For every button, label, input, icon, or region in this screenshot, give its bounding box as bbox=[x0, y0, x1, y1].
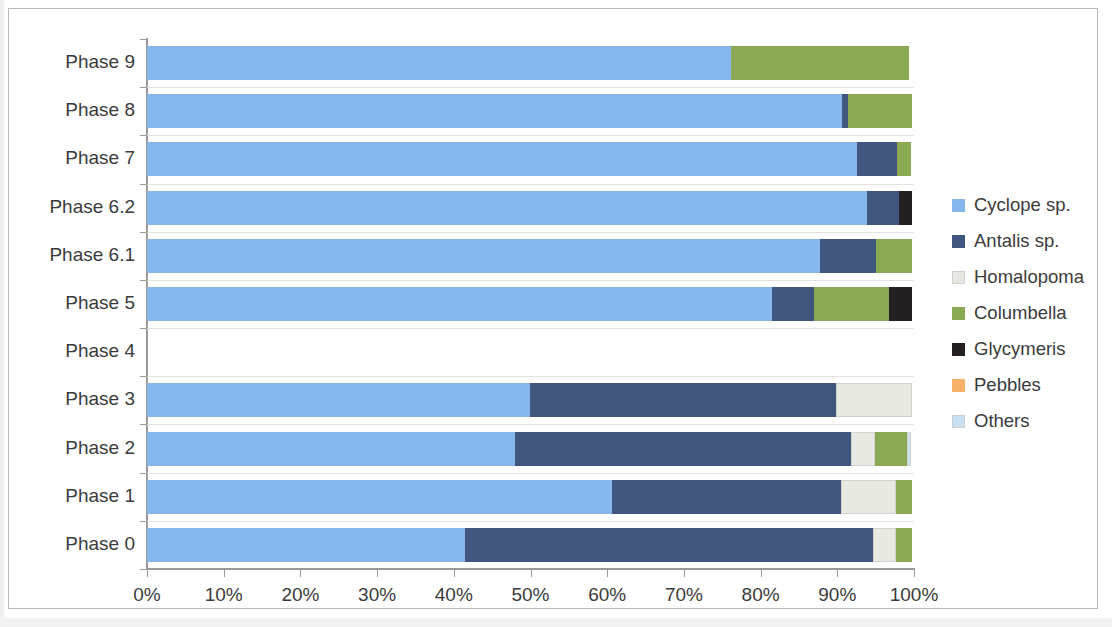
gridline bbox=[147, 232, 914, 233]
bar-segment[interactable] bbox=[147, 142, 857, 176]
bar-segment[interactable] bbox=[147, 383, 530, 417]
y-axis-tick bbox=[140, 39, 147, 40]
bar-segment[interactable] bbox=[465, 528, 873, 562]
bar-row[interactable] bbox=[147, 528, 914, 562]
y-axis-label-phase-7: Phase 7 bbox=[17, 147, 135, 169]
y-axis-label-phase-2: Phase 2 bbox=[17, 437, 135, 459]
bar-segment[interactable] bbox=[731, 46, 909, 80]
gridline bbox=[147, 280, 914, 281]
y-axis-tick bbox=[140, 473, 147, 474]
x-axis-label-80pct: 80% bbox=[742, 584, 780, 606]
gridline bbox=[147, 521, 914, 522]
bar-segment[interactable] bbox=[147, 287, 772, 321]
bar-segment[interactable] bbox=[836, 383, 912, 417]
x-axis-label-50pct: 50% bbox=[511, 584, 549, 606]
bar-row[interactable] bbox=[147, 142, 914, 176]
bar-segment[interactable] bbox=[772, 287, 814, 321]
bar-segment[interactable] bbox=[147, 480, 612, 514]
bar-row[interactable] bbox=[147, 383, 914, 417]
legend: Cyclope sp.Antalis sp.HomalopomaColumbel… bbox=[952, 187, 1102, 439]
legend-item[interactable]: Others bbox=[952, 403, 1102, 439]
bar-segment[interactable] bbox=[515, 432, 851, 466]
bar-segment[interactable] bbox=[147, 94, 842, 128]
scan-edge-left bbox=[0, 0, 4, 627]
legend-swatch-icon bbox=[952, 271, 965, 284]
legend-item[interactable]: Homalopoma bbox=[952, 259, 1102, 295]
bar-segment[interactable] bbox=[851, 432, 875, 466]
bar-segment[interactable] bbox=[147, 46, 731, 80]
legend-label: Glycymeris bbox=[974, 338, 1065, 360]
bar-segment[interactable] bbox=[814, 287, 889, 321]
bar-segment[interactable] bbox=[147, 239, 820, 273]
y-axis-tick bbox=[140, 232, 147, 233]
chart-frame: Phase 9Phase 8Phase 7Phase 6.2Phase 6.1P… bbox=[8, 8, 1098, 609]
bar-segment[interactable] bbox=[897, 142, 911, 176]
y-axis-tick bbox=[140, 135, 147, 136]
legend-item[interactable]: Pebbles bbox=[952, 367, 1102, 403]
bar-segment[interactable] bbox=[875, 432, 907, 466]
scan-edge-bottom bbox=[0, 618, 1112, 627]
bar-segment[interactable] bbox=[530, 383, 836, 417]
bar-row[interactable] bbox=[147, 46, 914, 80]
bar-segment[interactable] bbox=[147, 432, 515, 466]
bar-row[interactable] bbox=[147, 239, 914, 273]
y-axis-tick bbox=[140, 376, 147, 377]
bar-segment[interactable] bbox=[907, 432, 911, 466]
bar-segment[interactable] bbox=[147, 528, 465, 562]
bar-row[interactable] bbox=[147, 432, 914, 466]
x-axis-label-70pct: 70% bbox=[665, 584, 703, 606]
x-axis-tick bbox=[761, 569, 762, 577]
gridline bbox=[147, 184, 914, 185]
bar-segment[interactable] bbox=[896, 480, 911, 514]
x-axis-label-0pct: 0% bbox=[133, 584, 160, 606]
legend-item[interactable]: Cyclope sp. bbox=[952, 187, 1102, 223]
bar-row[interactable] bbox=[147, 94, 914, 128]
y-axis-tick bbox=[140, 87, 147, 88]
legend-item[interactable]: Glycymeris bbox=[952, 331, 1102, 367]
bar-segment[interactable] bbox=[896, 528, 912, 562]
gridline bbox=[147, 473, 914, 474]
y-axis-label-phase-1: Phase 1 bbox=[17, 485, 135, 507]
bar-row[interactable] bbox=[147, 287, 914, 321]
bar-segment[interactable] bbox=[889, 287, 911, 321]
x-axis-tick bbox=[837, 569, 838, 577]
y-axis-tick bbox=[140, 328, 147, 329]
x-axis-label-90pct: 90% bbox=[818, 584, 856, 606]
y-axis-label-phase-9: Phase 9 bbox=[17, 51, 135, 73]
gridline bbox=[147, 328, 914, 329]
y-axis-label-phase-3: Phase 3 bbox=[17, 388, 135, 410]
y-axis-label-phase-8: Phase 8 bbox=[17, 99, 135, 121]
legend-label: Cyclope sp. bbox=[974, 194, 1071, 216]
x-axis-tick bbox=[300, 569, 301, 577]
legend-label: Antalis sp. bbox=[974, 230, 1059, 252]
bar-segment[interactable] bbox=[147, 191, 867, 225]
bar-segment[interactable] bbox=[876, 239, 912, 273]
bar-row[interactable] bbox=[147, 191, 914, 225]
legend-swatch-icon bbox=[952, 415, 965, 428]
legend-swatch-icon bbox=[952, 379, 965, 392]
bar-segment[interactable] bbox=[841, 480, 896, 514]
x-axis-label-60pct: 60% bbox=[588, 584, 626, 606]
legend-item[interactable]: Columbella bbox=[952, 295, 1102, 331]
bar-segment[interactable] bbox=[857, 142, 897, 176]
y-axis-label-phase-5: Phase 5 bbox=[17, 292, 135, 314]
bar-segment[interactable] bbox=[820, 239, 876, 273]
legend-swatch-icon bbox=[952, 235, 965, 248]
legend-swatch-icon bbox=[952, 199, 965, 212]
bar-row[interactable] bbox=[147, 335, 914, 369]
bar-row[interactable] bbox=[147, 480, 914, 514]
y-axis-tick bbox=[140, 280, 147, 281]
x-axis-tick bbox=[147, 569, 148, 577]
legend-swatch-icon bbox=[952, 343, 965, 356]
bar-segment[interactable] bbox=[612, 480, 841, 514]
bar-segment[interactable] bbox=[899, 191, 911, 225]
gridline bbox=[147, 135, 914, 136]
bar-segment[interactable] bbox=[867, 191, 899, 225]
figure-container: Phase 9Phase 8Phase 7Phase 6.2Phase 6.1P… bbox=[0, 0, 1112, 627]
bar-segment[interactable] bbox=[873, 528, 895, 562]
legend-label: Others bbox=[974, 410, 1030, 432]
gridline bbox=[147, 376, 914, 377]
legend-item[interactable]: Antalis sp. bbox=[952, 223, 1102, 259]
bar-segment[interactable] bbox=[848, 94, 912, 128]
y-axis-label-phase-6.2: Phase 6.2 bbox=[17, 196, 135, 218]
